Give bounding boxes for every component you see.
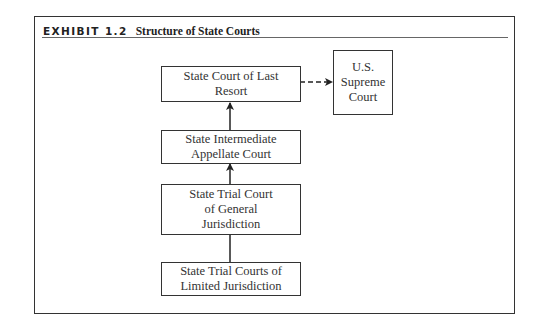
node-label: State Intermediate Appellate Court xyxy=(168,132,294,162)
node-state-trial-courts-limited-jurisdction: State Trial Courts of Limited Jurisdicti… xyxy=(161,262,301,296)
node-state-trial-court-general-jurisdiction: State Trial Court of General Jurisdictio… xyxy=(161,184,301,235)
node-label: State Trial Courts of Limited Jurisdicti… xyxy=(166,264,296,294)
node-state-intermediate-appellate-court: State Intermediate Appellate Court xyxy=(161,130,301,164)
node-label: State Court of Last Resort xyxy=(168,69,294,99)
node-label: U.S. Supreme Court xyxy=(338,60,388,105)
node-us-supreme-court: U.S. Supreme Court xyxy=(333,50,393,115)
node-label: State Trial Court of General Jurisdictio… xyxy=(184,187,278,232)
node-state-court-of-last-resort: State Court of Last Resort xyxy=(161,66,301,102)
